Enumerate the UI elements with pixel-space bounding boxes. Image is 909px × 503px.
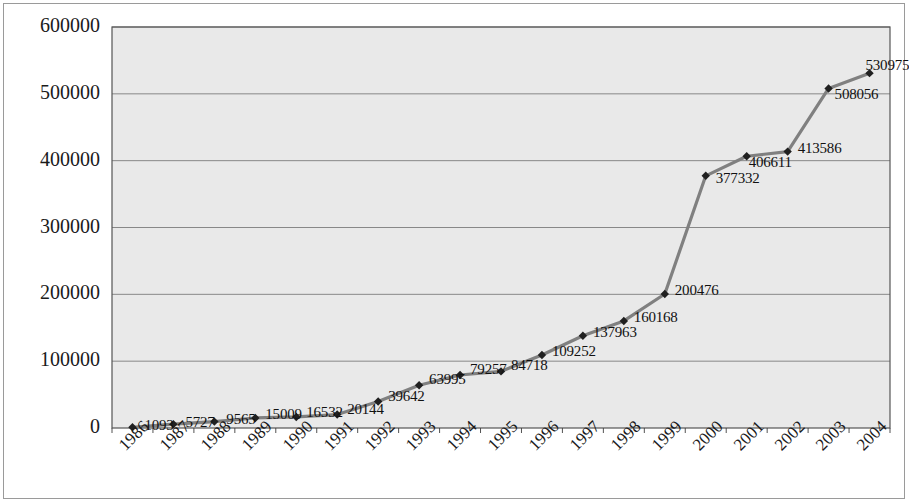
data-point-label: 16532 <box>306 404 343 421</box>
y-axis-tick-label: 200000 <box>40 281 100 304</box>
data-point-label: 15009 <box>265 406 302 423</box>
data-point-label: 413586 <box>798 140 842 157</box>
data-point-label: 84718 <box>511 357 548 374</box>
data-point-label: 9565 <box>226 411 255 428</box>
data-point-label: 5727 <box>185 414 214 431</box>
data-point-label: 79257 <box>470 361 507 378</box>
data-point-label: 1093 <box>144 417 173 434</box>
data-point-label: 160168 <box>634 309 678 326</box>
data-point-label: 530975 <box>866 57 909 74</box>
data-point-label: 20144 <box>347 401 384 418</box>
data-point-label: 377332 <box>716 170 760 187</box>
y-axis-tick-label: 300000 <box>40 215 100 238</box>
y-axis-tick-label: 600000 <box>40 14 100 37</box>
y-axis-tick-label: 400000 <box>40 148 100 171</box>
y-axis-tick-label: 500000 <box>40 81 100 104</box>
y-axis-tick-label: 100000 <box>40 348 100 371</box>
data-point-label: 39642 <box>388 388 425 405</box>
data-point-label: 137963 <box>593 324 637 341</box>
chart-figure: 0100000200000300000400000500000600000 19… <box>0 0 909 503</box>
data-point-label: 508056 <box>835 86 879 103</box>
data-point-label: 406611 <box>749 154 792 171</box>
data-point-label: 63995 <box>429 371 466 388</box>
data-point-label: 200476 <box>675 282 719 299</box>
data-point-label: 109252 <box>552 343 596 360</box>
y-axis-tick-label: 0 <box>90 415 100 438</box>
